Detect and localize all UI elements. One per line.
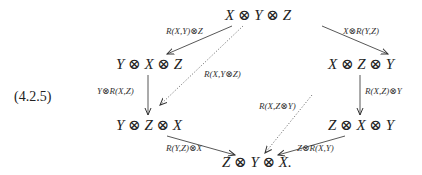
equation-number: (4.2.5) (14, 89, 51, 105)
label-dotted-right-upper-to-bottom: R(X,Z⊗Y) (259, 101, 296, 111)
label-right-lower-to-bottom: Z⊗R(X,Y) (297, 143, 334, 153)
label-right-upper-to-right-lower: R(X,Z)⊗Y (365, 86, 402, 96)
node-right-lower: Z ⊗ X ⊗ Y (328, 116, 394, 134)
node-top: X ⊗ Y ⊗ Z (225, 6, 291, 24)
node-left-upper: Y ⊗ X ⊗ Z (116, 55, 182, 73)
label-left-lower-to-bottom: R(Y,Z)⊗X (166, 143, 202, 153)
label-top-to-right-upper: X⊗R(Y,Z) (343, 26, 379, 36)
node-right-upper: X ⊗ Z ⊗ Y (328, 55, 394, 73)
label-dotted-top-to-left-lower: R(X,Y⊗Z) (204, 69, 241, 79)
node-left-lower: Y ⊗ Z ⊗ X (116, 116, 182, 134)
label-top-to-left-upper: R(X,Y)⊗Z (166, 26, 203, 36)
label-left-upper-to-left-lower: Y⊗R(X,Z) (97, 86, 134, 96)
node-bottom: Z ⊗ Y ⊗ X. (222, 153, 292, 171)
